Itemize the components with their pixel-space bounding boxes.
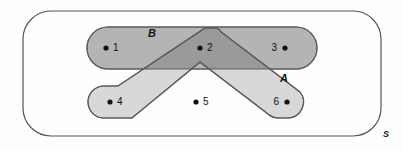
element-label: 2 — [207, 42, 213, 53]
venn-diagram-canvas: B A 1 2 3 4 5 6 S — [0, 0, 403, 151]
set-label-a: A — [279, 72, 288, 84]
element-dot — [197, 45, 202, 50]
element-label: 5 — [203, 96, 209, 107]
element-dot — [107, 99, 112, 104]
set-label-b: B — [148, 27, 156, 39]
element-dot — [282, 45, 287, 50]
venn-diagram-svg: B A 1 2 3 4 5 6 S — [0, 0, 403, 151]
element-label: 3 — [271, 42, 277, 53]
element-dot — [284, 99, 289, 104]
element-label: 4 — [117, 96, 123, 107]
element-label: 6 — [273, 96, 279, 107]
element-dot — [103, 45, 108, 50]
universal-set-label: S — [383, 129, 389, 139]
element-label: 1 — [113, 42, 119, 53]
element-dot — [193, 99, 198, 104]
